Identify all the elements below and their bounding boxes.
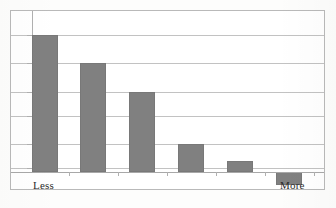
bar-3	[129, 92, 155, 172]
x-axis-label-more: More	[280, 179, 305, 191]
x-axis-tick	[167, 172, 168, 176]
bar-5	[227, 161, 253, 172]
bar-4	[178, 144, 204, 172]
x-axis-label-less: Less	[33, 179, 54, 191]
bar-2	[80, 63, 106, 172]
plot-area: Less More	[10, 10, 325, 190]
bar-1	[32, 35, 58, 172]
x-axis-tick	[265, 172, 266, 176]
histogram-chart: Less More	[0, 0, 336, 208]
x-axis-tick	[216, 172, 217, 176]
x-axis-tick	[314, 172, 315, 176]
x-axis-tick	[69, 172, 70, 176]
x-axis-tick	[118, 172, 119, 176]
